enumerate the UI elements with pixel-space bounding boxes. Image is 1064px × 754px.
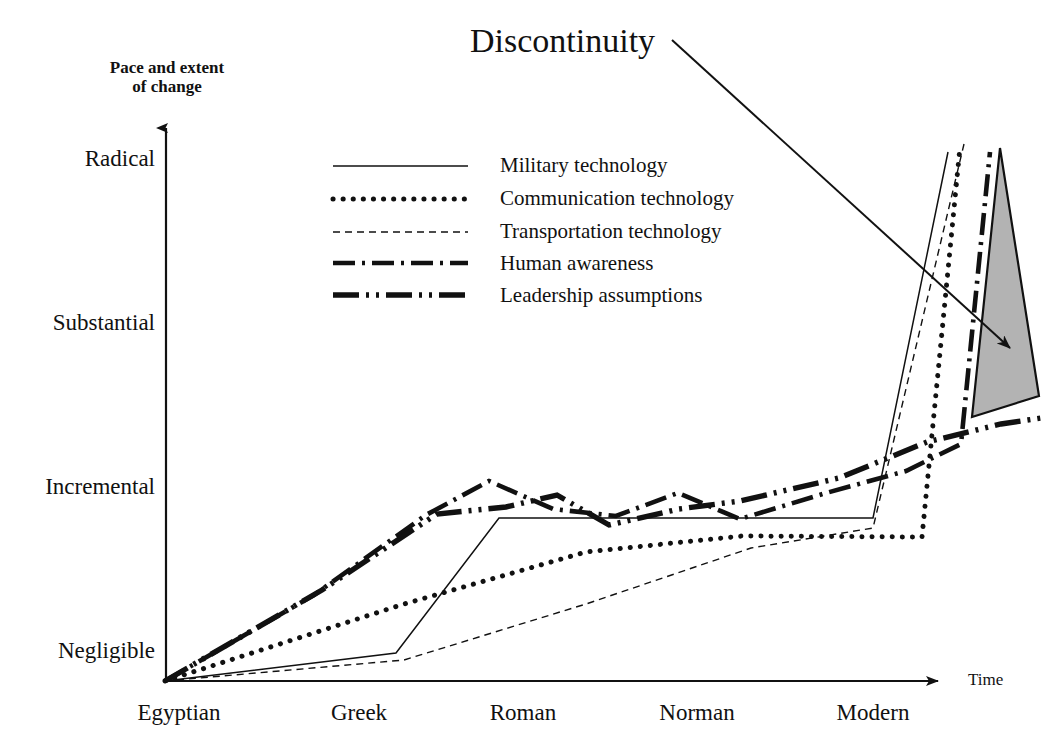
discontinuity-shaded-region — [972, 148, 1039, 417]
y-tick-label-incremental: Incremental — [5, 474, 155, 500]
y-axis-title-line-2: of change — [132, 77, 201, 96]
x-tick-label-roman: Roman — [438, 700, 608, 726]
axis-lines — [165, 128, 938, 681]
y-tick-label-negligible: Negligible — [5, 638, 155, 664]
y-axis-title: Pace and extentof change — [96, 58, 238, 96]
legend-swatches — [333, 166, 468, 295]
chart-figure: Pace and extentof change Time Radical Su… — [0, 0, 1064, 754]
legend-label-human-awareness: Human awareness — [500, 252, 653, 276]
legend-label-leadership-assumptions: Leadership assumptions — [500, 284, 702, 308]
discontinuity-callout-label: Discontinuity — [470, 22, 655, 60]
legend-label-military-technology: Military technology — [500, 154, 667, 178]
x-tick-label-norman: Norman — [612, 700, 782, 726]
y-tick-label-substantial: Substantial — [5, 310, 155, 336]
y-axis-title-line-1: Pace and extent — [110, 58, 224, 77]
x-tick-label-greek: Greek — [274, 700, 444, 726]
chart-canvas — [0, 0, 1064, 754]
legend-label-transportation-technology: Transportation technology — [500, 220, 721, 244]
x-tick-label-modern: Modern — [788, 700, 958, 726]
legend-label-communication-technology: Communication technology — [500, 187, 734, 211]
x-axis-title: Time — [968, 670, 1003, 689]
series-line-leadership-assumptions — [165, 418, 1041, 681]
x-tick-label-egyptian: Egyptian — [94, 700, 264, 726]
y-tick-label-radical: Radical — [5, 146, 155, 172]
